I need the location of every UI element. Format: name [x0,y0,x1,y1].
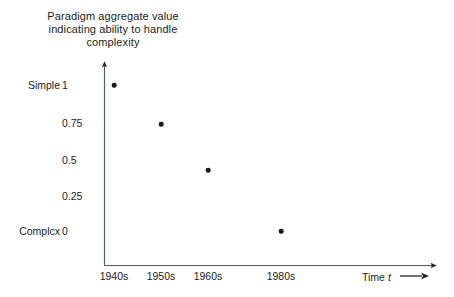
x-axis-title-text: Time [362,271,385,283]
data-point [279,229,284,234]
x-axis-title-variable: t [388,271,391,283]
chart-figure: Paradigm aggregate value indicating abil… [0,0,454,297]
x-tick-label-1960s: 1960s [194,271,223,282]
y-tick-label-025: 0.25 [62,191,96,202]
x-tick-label-1980s: 1980s [267,271,296,282]
chart-axes [0,0,454,297]
y-tick-label-0: 0 [62,226,96,237]
y-tick-label-05: 0.5 [62,155,96,166]
data-point [159,122,164,127]
right-arrow-icon [400,271,430,282]
data-point [112,83,117,88]
y-axis-low-label: Complcx [6,226,60,237]
x-tick-label-1940s: 1940s [100,271,129,282]
x-tick-label-1950s: 1950s [147,271,176,282]
data-point [206,168,211,173]
y-tick-label-075: 0.75 [62,118,96,129]
y-tick-label-1: 1 [62,80,96,91]
x-axis-title: Time t [362,271,430,283]
y-axis-high-label: Simple [6,80,60,91]
